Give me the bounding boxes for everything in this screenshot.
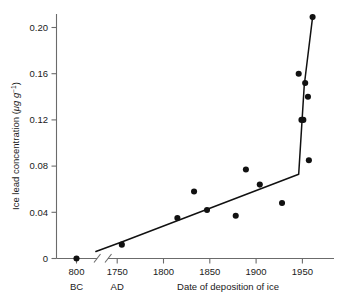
data-point	[233, 213, 239, 219]
data-point	[191, 188, 197, 194]
x-axis-left-segment: 800 BC	[57, 259, 98, 292]
y-axis-title-unit: μg g	[10, 92, 21, 112]
y-tick-label-012: 0.12	[30, 114, 49, 125]
y-axis: 0 0.04 0.08 0.12 0.16 0.20	[30, 14, 57, 264]
svg-text:Ice lead concentration (μg g−1: Ice lead concentration (μg g−1)	[10, 82, 21, 210]
data-point	[279, 200, 285, 206]
data-point	[243, 167, 249, 173]
data-point	[204, 207, 210, 213]
x-tick-label-800: 800	[69, 266, 85, 277]
data-point	[174, 215, 180, 221]
chart-figure: 0 0.04 0.08 0.12 0.16 0.20 Ice lead conc…	[0, 0, 341, 297]
data-point	[302, 80, 308, 86]
x-tick-label-1750: 1750	[107, 266, 128, 277]
y-axis-title: Ice lead concentration (μg g−1)	[10, 82, 21, 210]
lead-concentration-scatter-chart: 0 0.04 0.08 0.12 0.16 0.20 Ice lead conc…	[0, 0, 341, 297]
data-point	[119, 242, 125, 248]
y-tick-label-004: 0.04	[30, 207, 49, 218]
plot-data-layer	[73, 14, 315, 261]
x-tick-label-1900: 1900	[246, 266, 267, 277]
y-axis-title-main: Ice lead concentration (	[10, 110, 21, 210]
x-axis-right-segment: 1750 1800 1850 1900 1950 AD Date of depo…	[107, 259, 334, 292]
data-point	[257, 182, 263, 188]
y-tick-label-0: 0	[43, 253, 48, 264]
x-axis-title: Date of deposition of ice	[177, 281, 279, 292]
era-label-ad: AD	[111, 281, 124, 292]
data-point	[306, 157, 312, 163]
era-label-bc: BC	[70, 281, 83, 292]
data-point	[300, 117, 306, 123]
y-axis-title-close: )	[10, 82, 21, 85]
data-point	[310, 14, 316, 20]
x-tick-label-1850: 1850	[199, 266, 220, 277]
x-tick-label-1800: 1800	[153, 266, 174, 277]
data-point	[296, 71, 302, 77]
data-point	[305, 94, 311, 100]
y-tick-label-020: 0.20	[30, 22, 49, 33]
y-tick-label-016: 0.16	[30, 68, 49, 79]
trend-line	[96, 17, 313, 251]
x-tick-label-1950: 1950	[292, 266, 313, 277]
y-tick-label-008: 0.08	[30, 160, 49, 171]
data-point	[73, 255, 79, 261]
